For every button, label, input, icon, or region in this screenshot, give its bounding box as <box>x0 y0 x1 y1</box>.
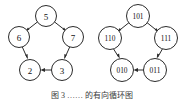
node-6[interactable]: 6 <box>9 27 30 48</box>
node-111-label: 111 <box>161 34 172 43</box>
node-7[interactable]: 7 <box>63 27 84 48</box>
node-011[interactable]: 011 <box>144 59 167 82</box>
node-110[interactable]: 110 <box>99 27 122 50</box>
node-3-label: 3 <box>60 66 65 76</box>
node-111[interactable]: 111 <box>155 27 178 50</box>
node-7-label: 7 <box>71 33 76 43</box>
figure-caption: 图 3 …… 的有向循环图 <box>0 90 184 101</box>
node-6-label: 6 <box>17 33 22 43</box>
node-2-label: 2 <box>28 66 33 76</box>
node-010-label: 010 <box>116 66 127 75</box>
figure-root: 5 6 7 2 3 <box>0 0 184 101</box>
binary-graph-svg: 101 110 111 010 011 <box>92 0 184 88</box>
edge-6-to-2 <box>22 47 28 60</box>
node-101-label: 101 <box>132 12 143 21</box>
node-101[interactable]: 101 <box>127 5 150 28</box>
edge-7-to-3 <box>64 47 70 60</box>
node-011-label: 011 <box>150 66 161 75</box>
edge-110-to-010 <box>114 49 120 59</box>
edge-3-to-2 <box>41 68 52 72</box>
node-5-label: 5 <box>44 12 49 22</box>
decimal-graph-panel: 5 6 7 2 3 <box>0 0 92 88</box>
node-5[interactable]: 5 <box>36 6 57 27</box>
node-3[interactable]: 3 <box>52 60 73 81</box>
decimal-graph-nodes: 5 6 7 2 3 <box>9 6 84 81</box>
node-2[interactable]: 2 <box>20 60 41 81</box>
node-010[interactable]: 010 <box>111 59 134 82</box>
binary-graph-panel: 101 110 111 010 011 <box>92 0 184 88</box>
node-110-label: 110 <box>105 34 116 43</box>
decimal-graph-svg: 5 6 7 2 3 <box>0 0 92 88</box>
edge-011-to-010 <box>134 68 144 72</box>
edge-111-to-011 <box>157 49 163 59</box>
